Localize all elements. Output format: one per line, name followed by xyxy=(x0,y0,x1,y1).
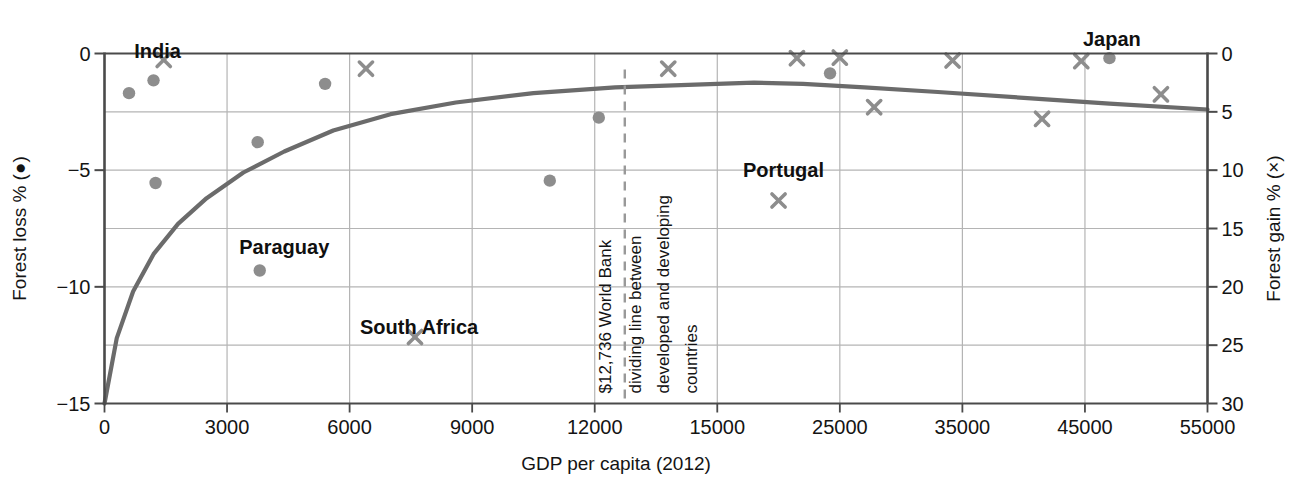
x-tick-label: 15000 xyxy=(689,416,745,438)
x-tick-label: 3000 xyxy=(205,416,250,438)
y-right-tick-label: 20 xyxy=(1222,276,1244,298)
data-point-circle xyxy=(544,174,556,186)
divider-annotation-line: countries xyxy=(682,325,701,394)
y-right-tick-label: 15 xyxy=(1222,218,1244,240)
data-point-cross xyxy=(662,62,675,75)
country-label: Paraguay xyxy=(239,236,330,258)
x-tick-label: 9000 xyxy=(450,416,495,438)
x-tick-label: 12000 xyxy=(567,416,623,438)
data-point-circle xyxy=(824,67,836,79)
data-point-cross xyxy=(1075,54,1088,67)
data-point-circle xyxy=(123,87,135,99)
data-point-cross xyxy=(946,54,959,67)
y-left-tick-label: −15 xyxy=(57,393,91,415)
y-right-tick-label: 0 xyxy=(1222,43,1233,65)
data-point-cross xyxy=(359,62,372,75)
country-label: India xyxy=(134,40,182,62)
x-tick-label: 35000 xyxy=(935,416,991,438)
y-left-tick-label: −5 xyxy=(68,159,91,181)
x-tick-label: 25000 xyxy=(812,416,868,438)
x-tick-label: 6000 xyxy=(327,416,372,438)
divider-annotation-line: developed and developing xyxy=(654,195,673,394)
y-left-axis-title: Forest loss % (●) xyxy=(9,156,30,301)
data-point-circle xyxy=(251,136,263,148)
data-point-circle xyxy=(254,264,266,276)
x-axis-title: GDP per capita (2012) xyxy=(521,453,711,474)
y-right-axis-title: Forest gain % (×) xyxy=(1263,155,1284,301)
y-right-tick-label: 30 xyxy=(1222,393,1244,415)
divider-annotation-line: $12,736 World Bank xyxy=(596,239,615,393)
chart-figure: $12,736 World Bankdividing line betweend… xyxy=(0,0,1297,494)
data-point-circle xyxy=(149,177,161,189)
data-point-cross xyxy=(772,194,785,207)
country-label: Portugal xyxy=(743,159,824,181)
x-tick-label: 0 xyxy=(99,416,110,438)
divider-annotation-layer: $12,736 World Bankdividing line betweend… xyxy=(596,70,701,404)
x-tick-label: 45000 xyxy=(1057,416,1113,438)
y-right-tick-label: 10 xyxy=(1222,159,1244,181)
data-point-cross xyxy=(1154,88,1167,101)
y-left-tick-label: −10 xyxy=(57,276,91,298)
data-point-circle xyxy=(147,74,159,86)
y-right-tick-label: 25 xyxy=(1222,334,1244,356)
forest-loss-gain-scatter-chart: $12,736 World Bankdividing line betweend… xyxy=(0,0,1297,494)
country-label: South Africa xyxy=(360,316,479,338)
data-point-circle xyxy=(593,111,605,123)
y-left-tick-label: 0 xyxy=(79,43,90,65)
y-right-tick-label: 5 xyxy=(1222,101,1233,123)
divider-annotation-line: dividing line between xyxy=(626,236,645,394)
country-label: Japan xyxy=(1083,28,1141,50)
data-point-cross xyxy=(1035,112,1048,125)
data-point-circle xyxy=(319,78,331,90)
x-tick-label: 55000 xyxy=(1180,416,1236,438)
